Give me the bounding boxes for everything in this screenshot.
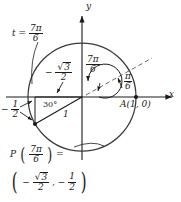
result-function-label: P ( 7π 6 ) = — [10, 145, 64, 165]
leader-sqrt3 — [57, 82, 63, 93]
arc-angle-label: 7π 6 — [86, 55, 100, 75]
open-paren: ( — [20, 145, 25, 164]
result-x-fraction: √3 2 — [33, 172, 49, 193]
parameter-label: t = 7π 6 — [12, 24, 43, 44]
radius-length-label: 1 — [63, 110, 69, 119]
terminal-point-marker — [33, 122, 37, 126]
x-axis-label: x — [169, 90, 174, 99]
leader-neghalf — [20, 101, 32, 107]
y-coordinate-label: − 1 2 — [1, 100, 19, 120]
result-argument-fraction: 7π 6 — [29, 145, 43, 165]
radical-icon: √3 — [56, 62, 70, 72]
coords-open-paren: ( — [12, 170, 18, 194]
leader-pi6 — [118, 78, 122, 88]
x-coordinate-label: − √3 2 — [45, 62, 72, 83]
unit-circle-figure: t = 7π 6 − √3 2 − 1 2 7π 6 π 6 — [0, 0, 181, 202]
y-coordinate-fraction: 1 2 — [11, 100, 19, 120]
result-sqrt3: √3 — [33, 172, 49, 183]
result-coordinates-label: ( − √3 2 , − 1 2 ) — [10, 170, 88, 194]
point-a-label: A(1, 0) — [120, 100, 151, 109]
sqrt3-numerator: √3 — [55, 62, 71, 73]
parameter-prefix: t = — [12, 29, 26, 38]
coords-close-paren: ) — [81, 170, 87, 194]
x-coordinate-fraction: √3 2 — [55, 62, 71, 83]
y-axis-label: y — [86, 2, 91, 11]
result-y-fraction: 1 2 — [68, 172, 76, 192]
reference-angle-label: π 6 — [124, 72, 132, 92]
radical-icon-result: √3 — [34, 172, 48, 182]
leader-result — [74, 143, 104, 147]
coords-separator: , — [52, 178, 55, 187]
arc-angle-fraction: 7π 6 — [86, 55, 100, 75]
leader-t — [32, 42, 38, 84]
reference-angle-degrees: 30° — [43, 101, 57, 109]
parameter-fraction: 7π 6 — [29, 24, 43, 44]
reference-angle-fraction: π 6 — [124, 72, 132, 92]
close-paren: ) — [47, 145, 52, 164]
